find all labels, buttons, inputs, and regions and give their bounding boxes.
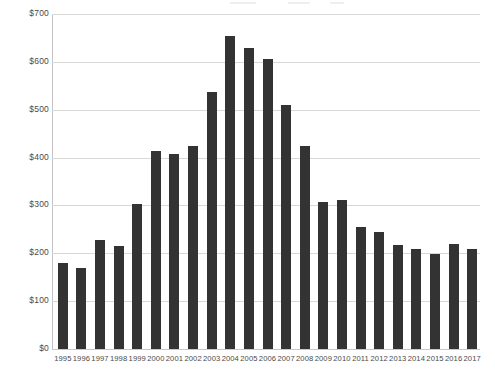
bar-2013 — [393, 245, 403, 349]
bar-1995 — [58, 263, 68, 349]
bars-group — [52, 14, 480, 349]
bar-2003 — [207, 92, 217, 349]
bar-2001 — [169, 154, 179, 349]
y-tick-label: $400 — [3, 153, 49, 162]
plot-area — [52, 14, 480, 349]
scan-artifact — [288, 2, 310, 4]
bar-1997 — [95, 240, 105, 349]
y-tick-label: $100 — [3, 296, 49, 305]
scan-artifact — [230, 2, 256, 4]
y-axis-tick-labels: $700$600$500$400$300$200$100$0 — [0, 0, 49, 374]
bar-2007 — [281, 105, 291, 349]
y-tick-label: $300 — [3, 200, 49, 209]
scan-artifact — [330, 2, 344, 4]
x-axis-tick-labels: 1995199619971998199920002001200220032004… — [52, 351, 480, 371]
gridline-0 — [52, 349, 480, 350]
bar-2005 — [244, 48, 254, 349]
y-tick-label: $600 — [3, 57, 49, 66]
bar-2015 — [430, 254, 440, 349]
y-tick-label: $0 — [3, 344, 49, 353]
bar-2014 — [411, 249, 421, 350]
bar-2006 — [263, 59, 273, 349]
bar-2008 — [300, 146, 310, 349]
y-tick-label: $200 — [3, 248, 49, 257]
bar-2010 — [337, 200, 347, 349]
bar-2002 — [188, 146, 198, 349]
y-tick-label: $700 — [3, 9, 49, 18]
bar-2016 — [449, 244, 459, 349]
y-tick-label: $500 — [3, 105, 49, 114]
x-tick-label: 2017 — [461, 354, 483, 363]
bar-1998 — [114, 246, 124, 349]
bar-2017 — [467, 249, 477, 350]
bar-2009 — [318, 202, 328, 349]
bar-2012 — [374, 232, 384, 349]
bar-chart: $700$600$500$400$300$200$100$0 199519961… — [0, 0, 495, 374]
bar-2004 — [225, 36, 235, 349]
bar-1999 — [132, 204, 142, 349]
bar-1996 — [76, 268, 86, 349]
bar-2000 — [151, 151, 161, 349]
bar-2011 — [356, 227, 366, 349]
